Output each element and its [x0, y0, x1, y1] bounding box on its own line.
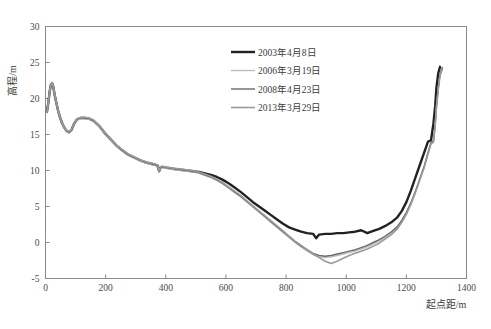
series-line-3: [47, 69, 442, 263]
legend-label-3: 2013年3月29日: [258, 102, 321, 113]
legend-label-1: 2006年3月19日: [258, 65, 321, 76]
x-tick-label: 200: [99, 283, 114, 293]
x-tick-label: 0: [43, 283, 48, 293]
y-axis-title: 高程/m: [6, 65, 18, 96]
y-tick-label: 15: [30, 130, 40, 140]
series-line-0: [47, 67, 440, 238]
x-tick-label: 800: [279, 283, 294, 293]
legend-label-2: 2008年4月23日: [258, 84, 321, 95]
x-tick-label: 1000: [337, 283, 356, 293]
x-tick-label: 600: [219, 283, 234, 293]
x-tick-label: 1200: [397, 283, 416, 293]
y-tick-label: 0: [35, 238, 40, 248]
y-tick-label: -5: [32, 274, 40, 284]
y-tick-label: 10: [30, 166, 40, 176]
y-tick-label: 5: [35, 202, 40, 212]
series-line-1: [47, 68, 442, 257]
elevation-profile-chart: 0200400600800100012001400-5051015202530起…: [0, 0, 491, 329]
x-axis-title: 起点距/m: [426, 299, 467, 310]
y-tick-label: 20: [30, 94, 40, 104]
chart-figure: 0200400600800100012001400-5051015202530起…: [0, 0, 491, 329]
plot-frame: [46, 27, 467, 279]
x-tick-label: 400: [159, 283, 174, 293]
legend-label-0: 2003年4月8日: [258, 47, 317, 58]
x-tick-label: 1400: [457, 283, 476, 293]
y-tick-label: 30: [30, 22, 40, 32]
y-tick-label: 25: [30, 58, 40, 68]
